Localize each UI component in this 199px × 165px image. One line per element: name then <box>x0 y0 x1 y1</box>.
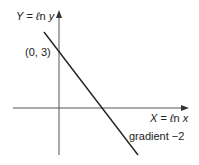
gradient-label: gradient −2 <box>129 130 184 142</box>
y-axis-arrow-icon <box>56 10 62 18</box>
regression-line <box>44 32 138 155</box>
graph: Y = ℓn y (0, 3) X = ℓn x gradient −2 <box>0 0 199 165</box>
x-axis-arrow-icon <box>181 105 189 111</box>
x-axis-label: X = ℓn x <box>149 112 189 124</box>
intercept-label: (0, 3) <box>25 46 51 58</box>
y-axis-label: Y = ℓn y <box>16 10 56 22</box>
